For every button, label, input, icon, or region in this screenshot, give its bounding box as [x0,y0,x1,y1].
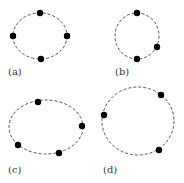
diagram-canvas: (a)(b)(c)(d) [0,0,184,183]
point-marker [134,10,140,16]
panel-b: (b) [115,10,160,77]
point-marker [15,142,21,148]
point-marker [37,10,43,16]
point-marker [101,112,107,118]
panel-label: (a) [8,66,22,77]
point-marker [64,33,70,39]
point-marker [154,44,160,50]
panel-a: (a) [8,10,70,77]
point-marker [158,92,164,98]
point-marker [134,56,140,62]
dashed-circle [115,13,159,59]
point-marker [156,147,162,153]
panel-label: (c) [8,164,22,175]
point-marker [79,123,85,129]
panel-d: (d) [101,87,174,175]
panel-label: (d) [103,164,117,175]
point-marker [35,99,41,105]
panel-label: (b) [115,66,129,77]
point-marker [56,150,62,156]
point-marker [10,33,16,39]
panel-c: (c) [8,99,85,175]
dashed-ellipse [13,13,67,59]
point-marker [38,56,44,62]
